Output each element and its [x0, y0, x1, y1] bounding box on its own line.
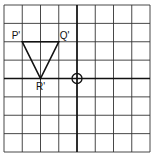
- vertex-label: R': [36, 81, 45, 92]
- coordinate-grid-diagram: P'Q'R': [0, 0, 152, 156]
- axes: [4, 5, 150, 152]
- vertex-label: Q': [60, 30, 70, 41]
- vertex-label: P': [12, 30, 21, 41]
